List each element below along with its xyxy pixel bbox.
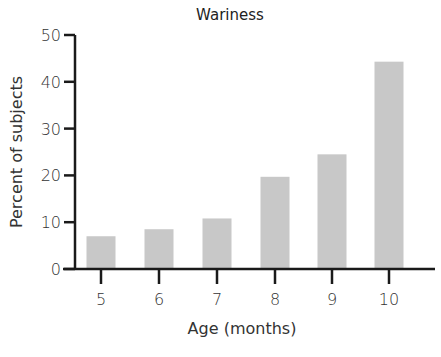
bar-chart: Wariness 01020304050 5678910 Percent of … [0, 0, 441, 357]
y-tick-label: 10 [41, 213, 61, 232]
y-tick-label: 20 [41, 166, 61, 185]
bars-group [87, 62, 404, 269]
chart-title: Wariness [196, 6, 264, 24]
y-axis-label: Percent of subjects [7, 76, 26, 228]
bar-7 [203, 218, 232, 269]
x-tick-label: 5 [96, 290, 106, 309]
x-tick-label: 6 [154, 290, 164, 309]
x-tick-label: 9 [327, 290, 337, 309]
bar-10 [375, 62, 404, 269]
x-tick-label: 7 [212, 290, 222, 309]
bar-6 [145, 229, 174, 269]
x-tick-label: 8 [270, 290, 280, 309]
y-tick-label: 50 [41, 26, 61, 45]
bar-5 [87, 236, 116, 269]
x-tick-label: 10 [379, 290, 399, 309]
x-axis: 5678910 [63, 269, 435, 309]
y-tick-label: 30 [41, 120, 61, 139]
bar-9 [318, 154, 347, 269]
x-axis-label: Age (months) [188, 319, 297, 338]
bar-8 [261, 177, 290, 269]
y-tick-label: 40 [41, 73, 61, 92]
y-axis: 01020304050 [41, 26, 75, 279]
y-tick-label: 0 [51, 260, 61, 279]
